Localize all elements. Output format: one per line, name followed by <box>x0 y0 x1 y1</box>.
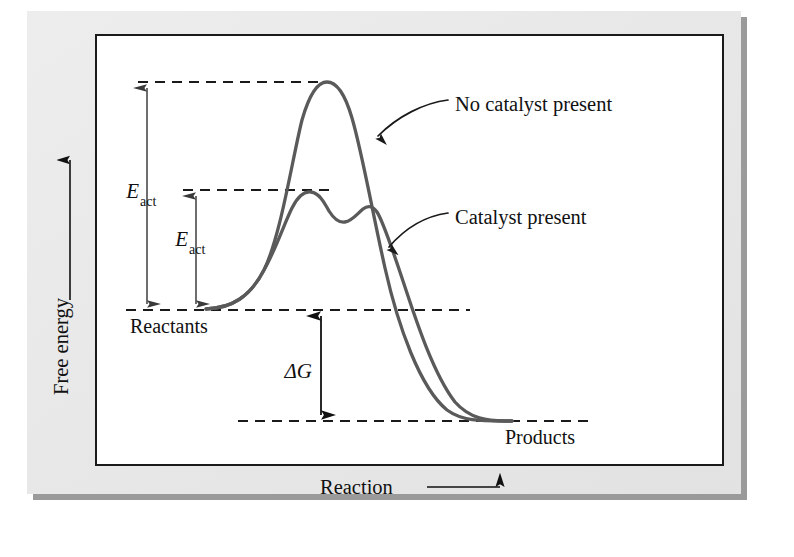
reaction-energy-diagram: Free energy Reaction E act E act ΔG Reac… <box>0 0 794 557</box>
delta-g-label: ΔG <box>284 359 313 383</box>
eact-uncatalyzed-symbol: E <box>125 179 139 203</box>
eact-catalyzed-subscript: act <box>189 242 205 257</box>
eact-uncatalyzed-subscript: act <box>140 194 156 209</box>
products-label: Products <box>505 426 575 448</box>
catalyst-label: Catalyst present <box>455 206 587 229</box>
figure-root: Free energy Reaction E act E act ΔG Reac… <box>0 0 794 557</box>
reactants-label: Reactants <box>130 315 208 337</box>
no-catalyst-label: No catalyst present <box>455 93 612 116</box>
x-axis-label: Reaction <box>320 476 393 498</box>
y-axis-label: Free energy <box>50 297 73 395</box>
eact-catalyzed-symbol: E <box>174 227 188 251</box>
